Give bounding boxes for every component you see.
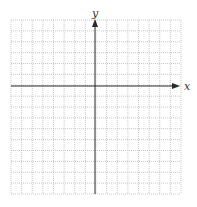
grid-lines [11,20,181,194]
coordinate-plane: x y [0,0,197,207]
x-axis-label: x [184,80,191,93]
x-axis: x [11,80,191,93]
y-axis: y [91,7,99,194]
x-axis-arrowhead-icon [172,83,180,89]
y-axis-label: y [91,7,99,20]
